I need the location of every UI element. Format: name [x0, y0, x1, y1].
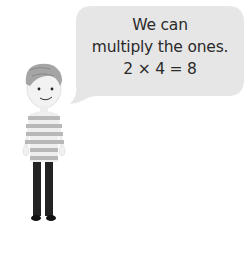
- bubble-line-2: multiply the ones.: [76, 36, 244, 58]
- boy-illustration: [10, 58, 82, 238]
- bubble-line-3: 2 × 4 = 8: [76, 58, 244, 80]
- bubble-line-1: We can: [76, 14, 244, 36]
- boy-character: [10, 58, 82, 238]
- speech-bubble-text: We can multiply the ones. 2 × 4 = 8: [76, 14, 244, 80]
- speech-bubble: We can multiply the ones. 2 × 4 = 8: [68, 4, 244, 98]
